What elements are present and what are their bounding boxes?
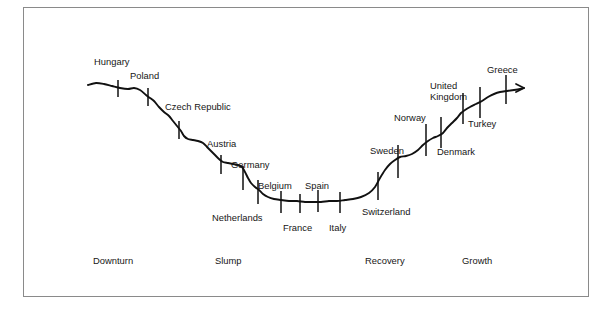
country-label-spain: Spain — [305, 180, 329, 191]
country-label-line: Germany — [231, 159, 270, 170]
country-label-line: Turkey — [468, 118, 497, 129]
country-label-belgium: Belgium — [258, 180, 292, 191]
country-label-germany: Germany — [231, 159, 270, 170]
phase-label-group: DownturnSlumpRecoveryGrowth — [93, 255, 492, 266]
country-label-line: Netherlands — [212, 212, 263, 223]
country-label-france: France — [283, 222, 312, 233]
phase-label-recovery: Recovery — [365, 255, 405, 266]
country-label-line: Italy — [329, 222, 347, 233]
economic-cycle-chart: HungaryPolandCzech RepublicAustriaGerman… — [0, 0, 613, 314]
country-label-line: Greece — [487, 64, 518, 75]
country-label-poland: Poland — [130, 70, 159, 81]
phase-label-downturn: Downturn — [93, 255, 133, 266]
country-label-line: Czech Republic — [165, 101, 231, 112]
country-label-line: Denmark — [437, 146, 475, 157]
country-label-czech-republic: Czech Republic — [165, 101, 231, 112]
figure-root: HungaryPolandCzech RepublicAustriaGerman… — [0, 0, 613, 314]
country-label-turkey: Turkey — [468, 118, 497, 129]
country-label-greece: Greece — [487, 64, 518, 75]
country-label-line: Spain — [305, 180, 329, 191]
country-label-line: Norway — [394, 112, 426, 123]
phase-label-slump: Slump — [215, 255, 242, 266]
country-label-netherlands: Netherlands — [212, 212, 263, 223]
country-label-line: Sweden — [370, 145, 404, 156]
country-label-line: United — [430, 80, 457, 91]
country-label-hungary: Hungary — [94, 56, 130, 67]
country-label-switzerland: Switzerland — [362, 206, 410, 217]
country-label-united-kingdom: UnitedKingdom — [430, 80, 467, 102]
country-label-line: Hungary — [94, 56, 130, 67]
phase-label-growth: Growth — [462, 255, 492, 266]
country-label-line: France — [283, 222, 312, 233]
country-label-line: Belgium — [258, 180, 292, 191]
country-label-austria: Austria — [207, 138, 237, 149]
country-label-line: Kingdom — [430, 91, 467, 102]
country-label-norway: Norway — [394, 112, 426, 123]
country-label-group: HungaryPolandCzech RepublicAustriaGerman… — [94, 56, 518, 233]
country-label-denmark: Denmark — [437, 146, 475, 157]
country-label-line: Austria — [207, 138, 237, 149]
curve-arrowhead-icon — [516, 84, 524, 92]
country-label-line: Poland — [130, 70, 159, 81]
country-label-line: Switzerland — [362, 206, 410, 217]
country-label-sweden: Sweden — [370, 145, 404, 156]
country-label-italy: Italy — [329, 222, 347, 233]
